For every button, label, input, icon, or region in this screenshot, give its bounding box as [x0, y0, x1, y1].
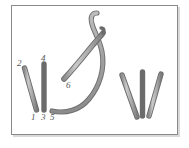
figure-root: 2 4 6 1 3 5	[0, 0, 189, 148]
point-label-1: 1	[31, 113, 36, 122]
point-label-5: 5	[50, 113, 55, 122]
point-label-3: 3	[41, 113, 46, 122]
stitch-diagram-canvas	[0, 0, 189, 148]
completed-stroke-3	[149, 74, 161, 116]
completed-stroke-1	[122, 75, 137, 117]
curved-needle	[64, 28, 104, 79]
point-label-6: 6	[66, 81, 71, 90]
point-label-2: 2	[17, 59, 22, 68]
stitch-leg-2-1	[25, 68, 37, 110]
left-stitch-group	[25, 64, 45, 110]
point-label-4: 4	[41, 54, 46, 63]
right-stitch-group	[122, 72, 161, 117]
